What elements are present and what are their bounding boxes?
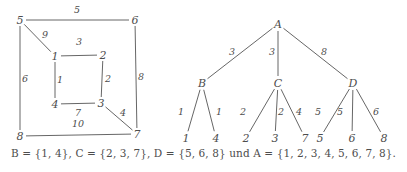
- tree-weight-A-D: 8: [321, 46, 327, 57]
- tree-node-L1: 1: [183, 132, 190, 145]
- tree-edge-C-L2: [250, 89, 275, 132]
- tree-node-D: D: [348, 77, 358, 90]
- graph-weight-n5-n6: 5: [74, 4, 80, 15]
- graph-weight-n6-n7: 8: [138, 71, 144, 82]
- tree-weight-C-L3: 2: [277, 106, 284, 117]
- figure-page: 59683127410 56871243 33811224556 ABCD142…: [0, 0, 407, 172]
- graph-weight-n5-n8: 6: [22, 73, 28, 84]
- graph-weight-i4-i3: 7: [75, 107, 82, 118]
- tree-weight-D-L6: 5: [337, 106, 343, 117]
- graph-weight-i1-i4: 1: [57, 74, 63, 85]
- tree-node-L6: 6: [349, 132, 356, 145]
- tree-node-B: B: [197, 77, 206, 90]
- graph-node-i1: 1: [52, 50, 59, 63]
- tree-weight-C-L2: 2: [239, 106, 246, 117]
- graph-edge-labels: 59683127410: [22, 4, 144, 129]
- tree-node-L4: 4: [212, 132, 220, 145]
- graph-node-n8: 8: [17, 130, 24, 143]
- tree-node-L3: 3: [272, 132, 279, 145]
- graph-edge-i2-i3: [101, 61, 103, 97]
- tree-weight-B-L4: 1: [216, 106, 222, 117]
- graph-node-i4: 4: [51, 98, 59, 111]
- tree-node-L5: 5: [317, 132, 324, 145]
- tree-weight-A-C: 3: [269, 46, 275, 57]
- tree-weight-D-L8: 6: [373, 106, 379, 117]
- tree-weight-B-L1: 1: [178, 106, 184, 117]
- graph-node-n5: 5: [17, 14, 24, 27]
- graph-weight-n8-n7: 10: [72, 118, 84, 129]
- tree-weight-D-L5: 5: [315, 106, 321, 117]
- graph-edge-n6-n7: [135, 26, 137, 128]
- graph-weight-i1-i2: 3: [76, 36, 82, 47]
- tree-edge-B-L4: [204, 90, 215, 131]
- tree-edge-B-L1: [188, 90, 200, 132]
- graph-edge-n8-n7: [26, 134, 131, 136]
- graph-weight-i2-i3: 2: [104, 73, 111, 84]
- graph-node-n6: 6: [132, 14, 139, 27]
- tree-edge-A-D: [284, 28, 348, 78]
- graph-edge-i4-i3: [61, 103, 95, 104]
- graph-node-n7: 7: [134, 128, 141, 141]
- tree-node-C: C: [274, 77, 283, 90]
- graph-node-i3: 3: [98, 97, 105, 110]
- tree-node-L7: 7: [302, 132, 309, 145]
- graph-weight-n5-i1: 9: [42, 29, 48, 40]
- tree-weight-C-L7: 4: [295, 106, 302, 117]
- tree-edge-A-B: [208, 28, 273, 78]
- graph-edge-i1-i2: [61, 55, 97, 56]
- tree-node-L8: 8: [381, 132, 388, 145]
- graph-weight-i3-n7: 4: [119, 107, 126, 118]
- tree-node-A: A: [273, 18, 282, 31]
- graph-node-i2: 2: [99, 49, 107, 62]
- tree-node-L2: 2: [242, 132, 250, 145]
- tree-weight-A-B: 3: [229, 46, 235, 57]
- tree-edge-D-L6: [352, 90, 353, 131]
- figure-caption: B = {1, 4}, C = {2, 3, 7}, D = {5, 6, 8}…: [0, 147, 407, 159]
